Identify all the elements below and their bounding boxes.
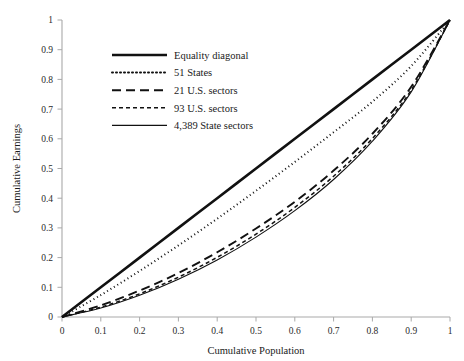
y-tick-label: 0.4: [41, 194, 53, 204]
curve-equality-diagonal: [62, 20, 450, 317]
y-tick-label: 0.7: [41, 105, 53, 115]
y-tick-label: 0.8: [41, 75, 53, 85]
x-axis-title: Cumulative Population: [207, 345, 305, 356]
x-tick-label: 0.6: [289, 326, 301, 336]
x-tick-labels: 00.10.20.30.40.50.60.70.80.91: [60, 326, 453, 336]
y-tick-label: 0.6: [41, 134, 53, 144]
y-tick-label: 0.9: [41, 45, 53, 55]
legend-label: 21 U.S. sectors: [174, 85, 238, 96]
y-tick-labels: 00.10.20.30.40.50.60.70.80.91: [41, 15, 53, 322]
legend-label: Equality diagonal: [174, 50, 248, 61]
x-tick-label: 0.4: [211, 326, 223, 336]
data-curves-group: [62, 20, 450, 317]
y-tick-label: 0.5: [41, 164, 53, 174]
x-tick-label: 0.5: [250, 326, 262, 336]
lorenz-curve-chart: 00.10.20.30.40.50.60.70.80.91 00.10.20.3…: [0, 0, 464, 361]
x-tick-label: 0.3: [172, 326, 184, 336]
y-tick-label: 1: [48, 15, 53, 25]
y-axis-title: Cumulative Earnings: [11, 124, 22, 213]
legend-label: 51 States: [174, 67, 212, 78]
legend-label: 4,389 State sectors: [174, 120, 253, 131]
x-tick-label: 0: [60, 326, 65, 336]
x-tick-label: 0.8: [366, 326, 378, 336]
y-tick-label: 0: [48, 312, 53, 322]
x-tick-label: 0.1: [95, 326, 107, 336]
chart-canvas: 00.10.20.30.40.50.60.70.80.91 00.10.20.3…: [0, 0, 464, 361]
x-tick-label: 0.2: [134, 326, 146, 336]
y-tick-label: 0.2: [41, 253, 53, 263]
chart-legend: Equality diagonal51 States21 U.S. sector…: [112, 50, 253, 131]
y-tick-label: 0.1: [41, 283, 53, 293]
x-tick-label: 1: [448, 326, 453, 336]
y-tick-label: 0.3: [41, 223, 53, 233]
x-tick-label: 0.9: [405, 326, 417, 336]
x-tick-label: 0.7: [328, 326, 340, 336]
legend-label: 93 U.S. sectors: [174, 103, 238, 114]
